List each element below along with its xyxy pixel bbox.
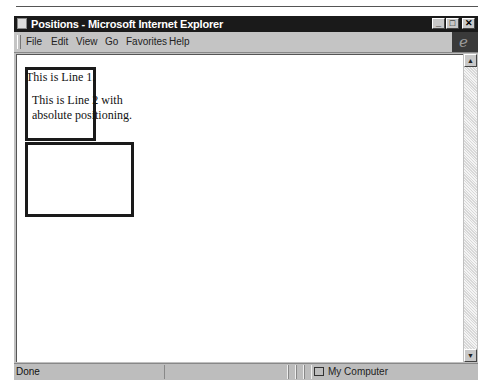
computer-icon bbox=[314, 367, 324, 376]
ie-logo: e bbox=[452, 32, 478, 52]
minimize-button[interactable]: _ bbox=[432, 18, 445, 29]
menu-file[interactable]: File bbox=[26, 35, 42, 49]
ie-logo-icon: e bbox=[459, 33, 468, 51]
menu-go[interactable]: Go bbox=[105, 35, 118, 49]
ie-page-icon bbox=[17, 18, 27, 29]
status-panel bbox=[164, 365, 288, 379]
page-content: This is Line 1. This is Line 2 with abso… bbox=[16, 54, 463, 362]
empty-box bbox=[25, 142, 134, 217]
browser-window: Positions - Microsoft Internet Explorer … bbox=[14, 16, 478, 379]
title-bar[interactable]: Positions - Microsoft Internet Explorer … bbox=[14, 16, 478, 32]
security-zone: My Computer bbox=[314, 366, 388, 377]
close-button[interactable]: ✕ bbox=[462, 18, 475, 29]
maximize-button[interactable]: □ bbox=[446, 18, 459, 29]
status-bar: Done My Computer bbox=[14, 363, 478, 380]
zone-label: My Computer bbox=[328, 366, 388, 377]
vertical-scrollbar[interactable]: ▲ ▼ bbox=[464, 54, 477, 362]
status-panel bbox=[304, 365, 312, 379]
page-rule bbox=[16, 6, 478, 7]
menu-view[interactable]: View bbox=[76, 35, 98, 49]
status-text: Done bbox=[16, 366, 40, 377]
toolbar-grip[interactable] bbox=[17, 35, 21, 49]
status-panel bbox=[288, 365, 296, 379]
menu-bar: File Edit View Go Favorites Help e bbox=[14, 32, 478, 53]
menu-edit[interactable]: Edit bbox=[51, 35, 68, 49]
window-title: Positions - Microsoft Internet Explorer bbox=[31, 17, 223, 31]
status-panel bbox=[296, 365, 304, 379]
scroll-up-button[interactable]: ▲ bbox=[464, 54, 477, 67]
menu-favorites[interactable]: Favorites bbox=[126, 35, 167, 49]
line2-text: This is Line 2 with absolute positioning… bbox=[32, 93, 142, 123]
line1-text: This is Line 1. bbox=[26, 70, 95, 85]
menu-help[interactable]: Help bbox=[169, 35, 190, 49]
scroll-down-button[interactable]: ▼ bbox=[464, 349, 477, 362]
